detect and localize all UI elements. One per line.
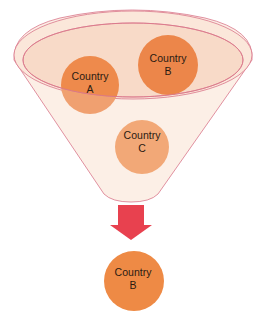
funnel-rim-inner xyxy=(23,23,243,97)
label-line1: Country xyxy=(150,52,187,65)
label-line1: Country xyxy=(72,70,109,83)
down-arrow-icon xyxy=(110,205,152,240)
label-line2: C xyxy=(124,142,161,155)
label-line2: A xyxy=(72,83,109,96)
label-line2: B xyxy=(115,279,152,292)
label-country-c: Country C xyxy=(124,129,161,155)
label-line2: B xyxy=(150,65,187,78)
label-country-a: Country A xyxy=(72,70,109,96)
label-result-country: Country B xyxy=(115,266,152,292)
label-line1: Country xyxy=(115,266,152,279)
label-line1: Country xyxy=(124,129,161,142)
label-country-b: Country B xyxy=(150,52,187,78)
